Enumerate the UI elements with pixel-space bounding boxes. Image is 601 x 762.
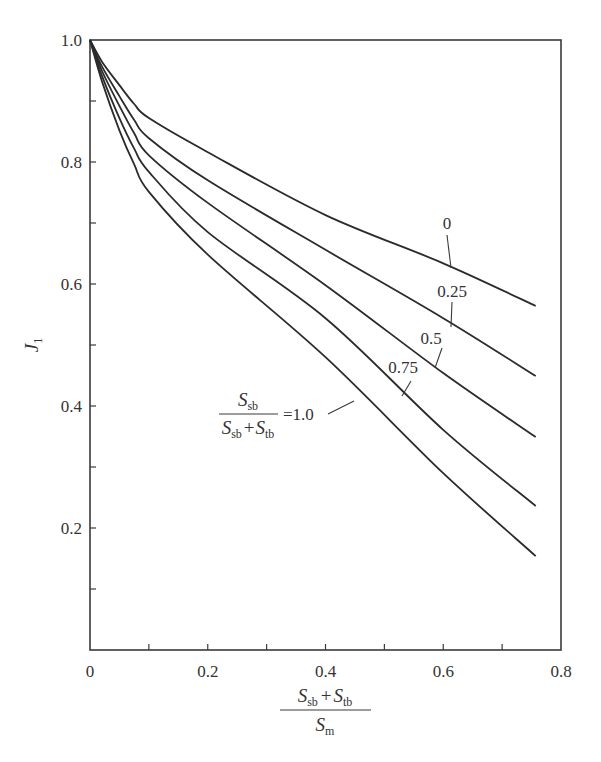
curve-label-0: 0 [443, 214, 452, 233]
x-axis-denominator: Sm [316, 714, 336, 738]
ratio-formula: Ssb Ssb+Stb =1.0 [219, 389, 314, 441]
y-tick-label: 0.8 [61, 153, 82, 172]
chart-canvas: 00.20.40.60.80.20.40.60.81.0 J1 Ssb+Stb … [0, 0, 601, 762]
x-tick-label: 0.6 [433, 662, 454, 681]
curves [90, 40, 536, 556]
curve-series-1-0 [90, 40, 536, 556]
y-tick-label: 1.0 [61, 31, 82, 50]
curve-series-0-5 [90, 40, 536, 437]
y-tick-label: 0.2 [61, 519, 82, 538]
y-axis-label: J1 [21, 338, 45, 352]
curve-label-0-5: 0.5 [420, 329, 441, 348]
axis-ticks [90, 101, 502, 650]
x-tick-label: 0.8 [550, 662, 571, 681]
svg-text:J1: J1 [21, 338, 45, 352]
formula-equals-value: =1.0 [283, 405, 314, 424]
curve-series-0-75 [90, 40, 536, 506]
x-axis-label: Ssb+Stb Sm [280, 685, 371, 738]
y-tick-label: 0.4 [61, 397, 83, 416]
leader-line-1-0 [328, 401, 354, 414]
leader-line-0-5 [435, 348, 442, 368]
plot-frame [90, 40, 561, 650]
formula-numerator: Ssb [238, 389, 258, 413]
curve-label-0-75: 0.75 [388, 358, 418, 377]
x-tick-label: 0 [86, 662, 95, 681]
x-axis-numerator: Ssb+Stb [298, 685, 353, 709]
curve-series-0 [90, 40, 536, 306]
leader-line-0 [447, 235, 451, 268]
x-tick-label: 0.4 [315, 662, 337, 681]
axis-tick-labels: 00.20.40.60.80.20.40.60.81.0 [61, 31, 572, 681]
curve-label-0-25: 0.25 [437, 282, 467, 301]
formula-denominator: Ssb+Stb [222, 417, 275, 441]
y-axis-subscript: 1 [31, 338, 45, 344]
y-tick-label: 0.6 [61, 275, 82, 294]
x-tick-label: 0.2 [197, 662, 218, 681]
